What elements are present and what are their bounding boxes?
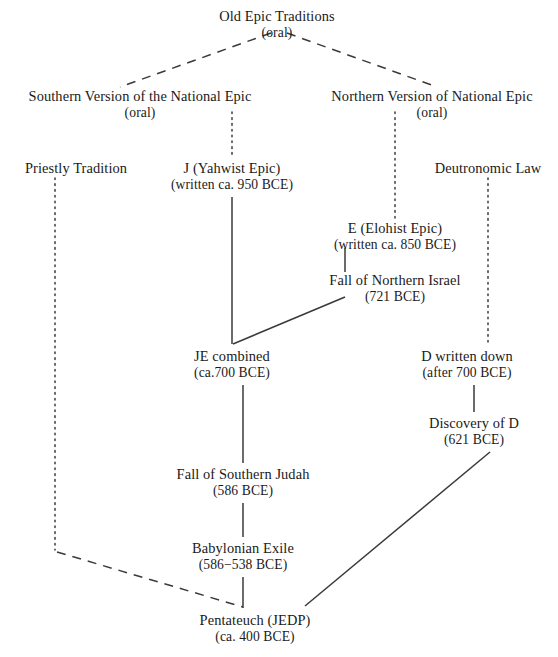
node-d-written-down-sublabel: (after 700 BCE) <box>421 365 513 381</box>
edge-old-epic-traditions-to-southern-version <box>120 33 271 87</box>
node-je-combined-sublabel: (ca.700 BCE) <box>194 365 270 381</box>
node-discovery-of-d-sublabel: (621 BCE) <box>429 432 519 448</box>
edge-old-epic-traditions-to-northern-version <box>287 33 437 87</box>
node-pentateuch-jedp: Pentateuch (JEDP)(ca. 400 BCE) <box>200 612 311 645</box>
node-d-written-down-label: D written down <box>421 348 513 365</box>
node-priestly-tradition: Priestly Tradition <box>25 160 127 177</box>
node-babylonian-exile-sublabel: (586−538 BCE) <box>192 557 294 573</box>
node-je-combined: JE combined(ca.700 BCE) <box>194 348 270 381</box>
node-northern-version-sublabel: (oral) <box>331 105 532 121</box>
node-je-combined-label: JE combined <box>194 348 270 365</box>
node-deutronomic-law: Deutronomic Law <box>435 160 542 177</box>
node-discovery-of-d: Discovery of D(621 BCE) <box>429 415 519 448</box>
node-old-epic-traditions-label: Old Epic Traditions <box>219 8 334 25</box>
node-discovery-of-d-label: Discovery of D <box>429 415 519 432</box>
node-fall-northern-israel-label: Fall of Northern Israel <box>329 272 460 289</box>
node-fall-southern-judah: Fall of Southern Judah(586 BCE) <box>177 466 310 499</box>
node-j-yahwist-epic-label: J (Yahwist Epic) <box>171 160 293 177</box>
node-fall-northern-israel: Fall of Northern Israel(721 BCE) <box>329 272 460 305</box>
node-babylonian-exile: Babylonian Exile(586−538 BCE) <box>192 540 294 573</box>
node-fall-southern-judah-label: Fall of Southern Judah <box>177 466 310 483</box>
node-southern-version: Southern Version of the National Epic(or… <box>29 88 252 121</box>
node-southern-version-sublabel: (oral) <box>29 105 252 121</box>
node-old-epic-traditions-sublabel: (oral) <box>219 25 334 41</box>
edge-fall-northern-israel-to-je-combined <box>233 297 345 344</box>
node-northern-version-label: Northern Version of National Epic <box>331 88 532 105</box>
node-e-elohist-epic-sublabel: (written ca. 850 BCE) <box>334 237 456 253</box>
node-fall-northern-israel-sublabel: (721 BCE) <box>329 289 460 305</box>
node-e-elohist-epic: E (Elohist Epic)(written ca. 850 BCE) <box>334 220 456 253</box>
node-e-elohist-epic-label: E (Elohist Epic) <box>334 220 456 237</box>
node-babylonian-exile-label: Babylonian Exile <box>192 540 294 557</box>
node-d-written-down: D written down(after 700 BCE) <box>421 348 513 381</box>
node-priestly-tradition-label: Priestly Tradition <box>25 160 127 177</box>
node-j-yahwist-epic-sublabel: (written ca. 950 BCE) <box>171 177 293 193</box>
node-southern-version-label: Southern Version of the National Epic <box>29 88 252 105</box>
edge-discovery-of-d-to-pentateuch-jedp <box>305 452 490 606</box>
node-fall-southern-judah-sublabel: (586 BCE) <box>177 483 310 499</box>
node-j-yahwist-epic: J (Yahwist Epic)(written ca. 950 BCE) <box>171 160 293 193</box>
node-pentateuch-jedp-sublabel: (ca. 400 BCE) <box>200 629 311 645</box>
node-old-epic-traditions: Old Epic Traditions(oral) <box>219 8 334 41</box>
node-deutronomic-law-label: Deutronomic Law <box>435 160 542 177</box>
node-pentateuch-jedp-label: Pentateuch (JEDP) <box>200 612 311 629</box>
node-northern-version: Northern Version of National Epic(oral) <box>331 88 532 121</box>
